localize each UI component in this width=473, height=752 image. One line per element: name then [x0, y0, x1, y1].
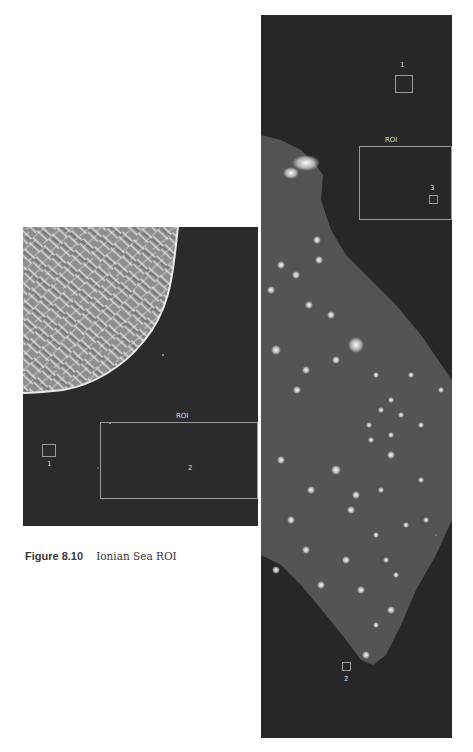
marker-label-3: 3 — [430, 185, 434, 192]
marker-box-2 — [342, 662, 351, 671]
roi-box — [100, 422, 258, 499]
right-land-peninsula — [261, 15, 452, 738]
marker-label-2: 2 — [188, 465, 192, 472]
roi-label: ROI — [385, 137, 397, 144]
figure-number: Figure 8.10 — [25, 550, 83, 562]
sar-image-right: 1 ROI 3 2 — [261, 15, 452, 738]
figure-title: Ionian Sea ROI — [96, 550, 177, 562]
marker-box-1 — [395, 75, 413, 93]
roi-label: ROI — [176, 413, 188, 420]
marker-box-1 — [42, 444, 56, 457]
marker-label-1: 1 — [400, 62, 404, 69]
roi-box — [359, 146, 452, 220]
marker-box-3 — [429, 195, 438, 204]
figure-caption: Figure 8.10 Ionian Sea ROI — [25, 550, 177, 562]
marker-label-2: 2 — [344, 676, 348, 683]
marker-label-1: 1 — [47, 461, 51, 468]
sar-image-left: ROI 1 2 — [23, 227, 258, 526]
